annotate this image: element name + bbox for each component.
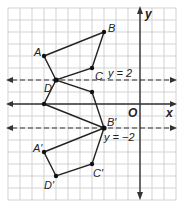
label-d: D (44, 82, 52, 94)
vertex-a (42, 54, 46, 58)
vertex-a-prime (42, 150, 46, 154)
vertex-c-prime (90, 162, 94, 166)
label-a: A (33, 46, 41, 58)
vertex-intermediate-c (90, 90, 94, 94)
y-axis-label: y (144, 7, 153, 21)
vertex-b-prime (101, 125, 106, 130)
vertex-d (53, 77, 58, 82)
label-c-prime: C′ (93, 167, 104, 179)
x-axis-label: x (165, 106, 174, 120)
vertex-d-prime (54, 174, 58, 178)
line-y-neg2-label: y = −2 (103, 131, 135, 143)
vertex-intermediate-a (42, 102, 46, 106)
label-b: B (108, 22, 115, 34)
line-y-2-label: y = 2 (107, 67, 132, 79)
vertex-c (90, 66, 94, 70)
label-a-prime: A′ (32, 142, 43, 154)
coordinate-plane: y x O y = 2 y = −2 A B C D A′ B′ C′ D′ (0, 0, 181, 205)
label-c: C (95, 70, 103, 82)
vertex-b (102, 30, 106, 34)
label-d-prime: D′ (44, 179, 55, 191)
label-b-prime: B′ (107, 116, 117, 128)
y-axis (137, 6, 143, 200)
origin-label: O (128, 106, 138, 120)
